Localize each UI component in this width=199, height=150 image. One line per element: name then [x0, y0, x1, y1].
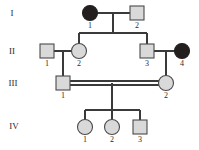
symbol-square-unaffected-IV-3[interactable]: [133, 120, 147, 134]
individual-IV-2[interactable]: 2: [105, 120, 120, 144]
individual-number-I-2: 2: [135, 21, 139, 30]
individual-II-3[interactable]: 3: [140, 44, 154, 68]
individual-number-II-2: 2: [77, 59, 81, 68]
symbol-square-unaffected-II-1[interactable]: [40, 44, 54, 58]
generation-label-I: I: [11, 8, 14, 18]
individual-number-IV-2: 2: [110, 135, 114, 144]
individual-IV-3[interactable]: 3: [133, 120, 147, 144]
generation-labels: I II III IV: [9, 8, 20, 131]
symbol-circle-affected-II-4[interactable]: [175, 44, 190, 59]
individual-number-II-3: 3: [145, 59, 149, 68]
individual-number-II-1: 1: [45, 59, 49, 68]
individual-number-II-4: 4: [180, 59, 184, 68]
individual-II-2[interactable]: 2: [72, 44, 87, 68]
individual-IV-1[interactable]: 1: [78, 120, 93, 144]
individual-II-1[interactable]: 1: [40, 44, 54, 68]
pedigree-lines: [54, 13, 175, 120]
symbol-circle-affected-I-1[interactable]: [83, 6, 98, 21]
individual-III-2[interactable]: 2: [159, 76, 174, 100]
individual-number-I-1: 1: [88, 21, 92, 30]
individual-number-IV-1: 1: [83, 135, 87, 144]
generation-label-II: II: [9, 46, 15, 56]
symbol-square-unaffected-II-3[interactable]: [140, 44, 154, 58]
individual-number-III-1: 1: [61, 91, 65, 100]
symbol-circle-unaffected-II-2[interactable]: [72, 44, 87, 59]
generation-label-IV: IV: [9, 121, 19, 131]
individual-II-4[interactable]: 4: [175, 44, 190, 68]
individual-III-1[interactable]: 1: [56, 76, 70, 100]
generation-label-III: III: [9, 78, 18, 88]
symbol-square-unaffected-I-2[interactable]: [130, 6, 144, 20]
symbol-circle-unaffected-IV-1[interactable]: [78, 120, 93, 135]
pedigree-chart: I II III IV 1 2 1 2 3: [0, 0, 199, 150]
symbol-circle-unaffected-III-2[interactable]: [159, 76, 174, 91]
individual-I-1[interactable]: 1: [83, 6, 98, 30]
symbol-circle-unaffected-IV-2[interactable]: [105, 120, 120, 135]
pedigree-canvas: I II III IV 1 2 1 2 3: [0, 0, 199, 150]
individual-number-III-2: 2: [164, 91, 168, 100]
individual-I-2[interactable]: 2: [130, 6, 144, 30]
individual-number-IV-3: 3: [138, 135, 142, 144]
symbol-square-unaffected-III-1[interactable]: [56, 76, 70, 90]
